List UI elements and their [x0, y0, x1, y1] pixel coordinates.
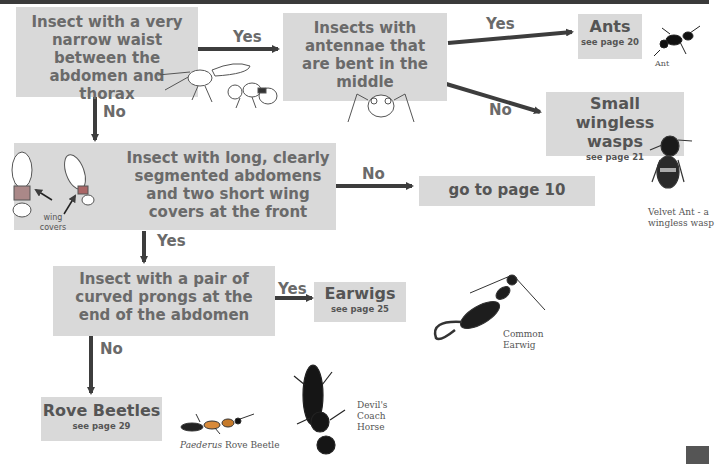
wing-cover-pointer-arrows: [36, 190, 75, 214]
caption-paederus-rove-beetle: Paederus Rove Beetle: [180, 440, 290, 451]
caption-common-earwig: Common Earwig: [503, 329, 543, 351]
ant-sketch-icon: [228, 83, 277, 108]
devils-coach-horse-photo-icon: [294, 365, 345, 454]
caption-velvet-ant: Velvet Ant - a wingless wasp: [648, 207, 718, 229]
paederus-rove-beetle-photo-icon: [181, 414, 254, 434]
earwig-sketch-icon: [12, 152, 94, 217]
caption-genus: Paederus: [180, 440, 222, 450]
ant-head-sketch-icon: [348, 94, 414, 122]
ant-photo-icon: [654, 26, 700, 56]
page-corner-tab: [686, 446, 709, 464]
caption-ant: Ant: [655, 58, 669, 69]
caption-common-name: Rove Beetle: [222, 440, 279, 450]
caption-wing-covers: wing covers: [38, 213, 68, 233]
caption-devils-coach-horse: Devil's Coach Horse: [357, 400, 389, 433]
velvet-ant-photo-icon: [650, 136, 692, 188]
